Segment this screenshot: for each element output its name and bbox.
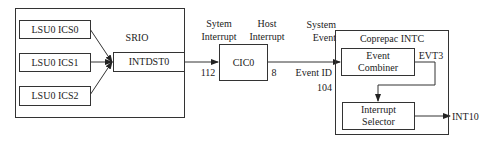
system-interrupt-number: 112 [199, 67, 217, 78]
host-interrupt-line1: Host [244, 18, 290, 29]
event-id-line2: 104 [290, 82, 332, 93]
lsu0-ics1-label: LSU0 ICS1 [32, 57, 79, 69]
lsu0-ics0-box: LSU0 ICS0 [19, 20, 91, 39]
event-combiner-line1: Event [358, 50, 398, 62]
interrupt-selector-line2: Selector [361, 116, 396, 128]
host-interrupt-number: 8 [270, 67, 278, 78]
system-event-label: System Event [300, 19, 336, 43]
coprepac-intc-title: Coprepac INTC [352, 33, 432, 44]
system-interrupt-line1: Sytem [196, 18, 242, 29]
event-combiner-box: Event Combiner [341, 48, 415, 76]
cic0-box: CIC0 [219, 44, 268, 81]
lsu0-ics2-label: LSU0 ICS2 [32, 90, 79, 102]
event-combiner-line2: Combiner [358, 62, 398, 74]
lsu0-ics1-box: LSU0 ICS1 [19, 53, 91, 72]
system-event-line1: System [300, 19, 336, 30]
interrupt-selector-box: Interrupt Selector [342, 102, 415, 130]
cic0-label: CIC0 [233, 57, 255, 69]
host-interrupt-line2: Interrupt [244, 31, 290, 42]
lsu0-ics2-box: LSU0 ICS2 [19, 86, 91, 106]
system-event-line2: Event [300, 32, 336, 43]
evt3-label: EVT3 [417, 50, 445, 61]
int10-label: INT10 [452, 111, 484, 122]
intdst0-label: INTDST0 [129, 56, 170, 68]
lsu0-ics0-label: LSU0 ICS0 [32, 24, 79, 36]
host-interrupt-label: Host Interrupt [244, 18, 290, 42]
srio-title: SRIO [122, 32, 152, 43]
intdst0-box: INTDST0 [113, 52, 185, 72]
event-id-label: Event ID 104 [290, 67, 332, 93]
interrupt-selector-line1: Interrupt [361, 104, 396, 116]
system-interrupt-line2: Interrupt [196, 31, 242, 42]
system-interrupt-label: Sytem Interrupt [196, 18, 242, 42]
event-id-line1: Event ID [290, 67, 332, 78]
